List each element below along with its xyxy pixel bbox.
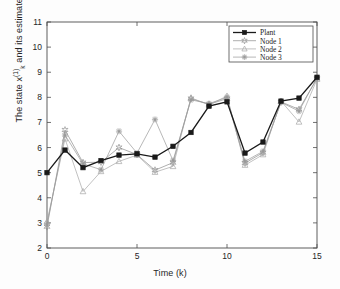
marker-square [81,165,85,169]
marker-square [315,75,319,79]
marker-square [63,148,67,152]
chart-figure: 234567891011051015PlantNode 1Node 2Node … [0,0,340,289]
marker-square [243,151,247,155]
y-tick-label: 8 [37,92,42,102]
legend: PlantNode 1Node 2Node 3 [229,26,313,62]
x-tick-label: 0 [45,251,50,261]
y-tick-label: 10 [33,42,43,52]
y-axis-label: The state x(1)k and its estimates [12,0,26,123]
marker-square [153,155,157,159]
x-axis-label: Time (k) [0,268,340,278]
y-tick-label: 7 [37,117,42,127]
y-tick-label: 2 [37,243,42,253]
marker-square [279,99,283,103]
x-tick-label: 15 [312,251,322,261]
y-tick-label: 6 [37,143,42,153]
y-tick-label: 11 [33,17,42,27]
y-tick-label: 3 [37,218,42,228]
marker-square [135,152,139,156]
marker-square [189,130,193,134]
marker-square [261,140,265,144]
marker-square [99,158,103,162]
x-tick-label: 10 [222,251,232,261]
x-tick-label: 5 [135,251,140,261]
legend-label: Node 3 [260,53,282,62]
marker-square [225,100,229,104]
marker-square [242,30,246,34]
marker-square [171,144,175,148]
line-chart: 234567891011051015PlantNode 1Node 2Node … [0,0,340,289]
marker-square [45,170,49,174]
marker-square [207,104,211,108]
marker-square [117,153,121,157]
y-axis-label-container: The state x(1)k and its estimates [8,0,24,158]
y-tick-label: 4 [37,193,42,203]
y-tick-label: 9 [37,67,42,77]
marker-square [297,96,301,100]
y-tick-label: 5 [37,168,42,178]
